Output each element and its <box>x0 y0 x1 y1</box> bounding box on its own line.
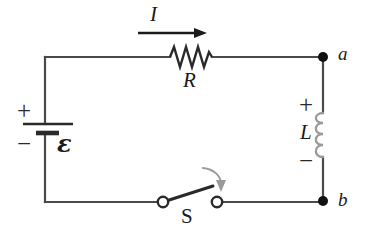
switch-contact-right[interactable] <box>212 197 222 207</box>
inductor-plus-sign: + <box>299 92 313 117</box>
current-arrow <box>138 28 207 38</box>
node-label-b: b <box>338 190 348 209</box>
resistor-symbol <box>170 47 212 67</box>
inductor-minus-sign: − <box>299 148 313 173</box>
inductor-label: L <box>300 122 312 143</box>
switch-label: S <box>181 206 193 227</box>
current-label: I <box>150 4 157 25</box>
node-dot-b <box>318 196 328 206</box>
resistor-label: R <box>183 70 196 91</box>
node-label-a: a <box>338 44 348 63</box>
circuit-diagram: I R L S ε a b + − + − <box>0 0 366 239</box>
battery-minus-sign: − <box>17 131 31 156</box>
battery-plus-sign: + <box>17 98 31 123</box>
current-arrow-head <box>194 28 207 38</box>
switch-blade[interactable] <box>166 186 213 201</box>
inductor-symbol <box>316 113 323 157</box>
node-dot-a <box>318 52 328 62</box>
switch-closing-arrow-head <box>216 180 226 192</box>
emf-label: ε <box>57 132 72 156</box>
inductor-coil-path <box>316 113 323 157</box>
switch-contact-left[interactable] <box>158 197 168 207</box>
